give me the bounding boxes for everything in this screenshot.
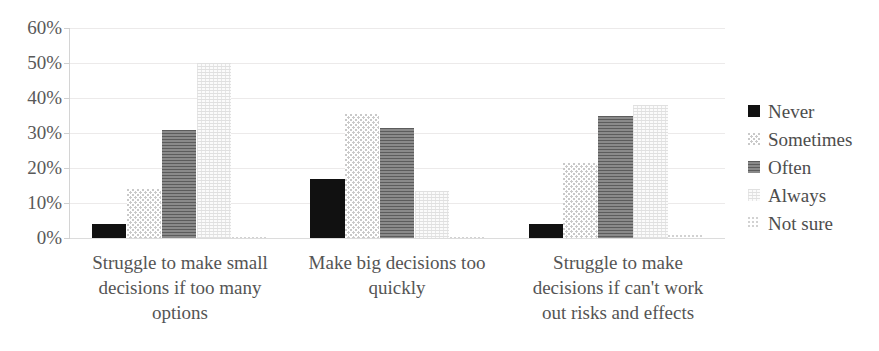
category-label-line: Make big decisions too xyxy=(292,250,502,275)
plot-area xyxy=(70,28,725,238)
legend-label: Always xyxy=(768,186,826,205)
bar-not-sure-cat3 xyxy=(668,235,702,239)
y-tick-label: 30% xyxy=(0,123,62,142)
category-label-line: out risks and effects xyxy=(508,300,728,325)
bar-never-cat1 xyxy=(92,224,126,238)
bar-sometimes-cat2 xyxy=(345,114,379,238)
bar-always-cat2 xyxy=(415,191,449,238)
y-tick-label: 60% xyxy=(0,18,62,37)
bar-sometimes-cat3 xyxy=(563,163,597,238)
y-tick-label: 50% xyxy=(0,53,62,72)
legend-item-often[interactable]: Often xyxy=(748,153,876,181)
legend-label: Sometimes xyxy=(768,130,852,149)
category-label-line: Struggle to make small xyxy=(70,250,290,275)
bar-always-cat3 xyxy=(633,105,667,238)
legend-label: Never xyxy=(768,102,814,121)
category-label-line: decisions if can't work xyxy=(508,275,728,300)
bar-often-cat3 xyxy=(598,116,632,239)
bar-never-cat3 xyxy=(529,224,563,238)
y-tick-label: 40% xyxy=(0,88,62,107)
legend-item-never[interactable]: Never xyxy=(748,97,876,125)
bar-often-cat2 xyxy=(380,128,414,238)
legend-item-sometimes[interactable]: Sometimes xyxy=(748,125,876,153)
x-axis-labels: Struggle to make small decisions if too … xyxy=(70,250,725,350)
legend-swatch-never-icon xyxy=(748,105,760,117)
bar-often-cat1 xyxy=(162,130,196,239)
legend-label: Not sure xyxy=(768,214,833,233)
bar-never-cat2 xyxy=(310,179,344,239)
gridline-baseline xyxy=(70,238,725,239)
bar-sometimes-cat1 xyxy=(127,189,161,238)
y-tick-label: 10% xyxy=(0,193,62,212)
legend-swatch-always-icon xyxy=(748,189,760,201)
category-label-line: decisions if too many xyxy=(70,275,290,300)
chart-figure: 60% 50% 40% 30% 20% 10% 0% Struggle to m… xyxy=(0,0,879,351)
bar-always-cat1 xyxy=(197,63,231,238)
legend-swatch-often-icon xyxy=(748,161,760,173)
y-tick-label: 20% xyxy=(0,158,62,177)
y-axis: 60% 50% 40% 30% 20% 10% 0% xyxy=(0,18,62,248)
category-label: Make big decisions too quickly xyxy=(292,250,502,300)
bar-not-sure-cat1 xyxy=(232,237,266,238)
bar-not-sure-cat2 xyxy=(450,237,484,238)
y-tick-label: 0% xyxy=(0,228,62,247)
legend: Never Sometimes Often Always Not sure xyxy=(748,97,876,237)
category-label-line: Struggle to make xyxy=(508,250,728,275)
legend-label: Often xyxy=(768,158,811,177)
category-label: Struggle to make small decisions if too … xyxy=(70,250,290,325)
category-label-line: quickly xyxy=(292,275,502,300)
legend-item-always[interactable]: Always xyxy=(748,181,876,209)
bars-layer xyxy=(70,28,725,238)
legend-swatch-sometimes-icon xyxy=(748,133,760,145)
legend-swatch-not-sure-icon xyxy=(748,217,760,229)
legend-item-not-sure[interactable]: Not sure xyxy=(748,209,876,237)
category-label-line: options xyxy=(70,300,290,325)
category-label: Struggle to make decisions if can't work… xyxy=(508,250,728,325)
